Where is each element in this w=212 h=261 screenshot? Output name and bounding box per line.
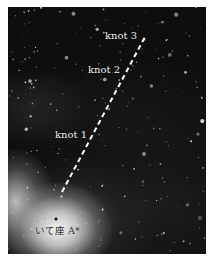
sgr-a-star-label: いて座 A*	[35, 226, 80, 236]
astronomical-image: knot 3 knot 2 knot 1 いて座 A*	[8, 7, 206, 254]
jet-dashed-line	[62, 35, 146, 192]
knot-2-label: knot 2	[88, 65, 120, 75]
source-marker-dot	[54, 217, 57, 220]
knot-1-label: knot 1	[55, 130, 87, 140]
jet-overlay	[8, 7, 206, 254]
knot-3-label: knot 3	[105, 31, 137, 41]
